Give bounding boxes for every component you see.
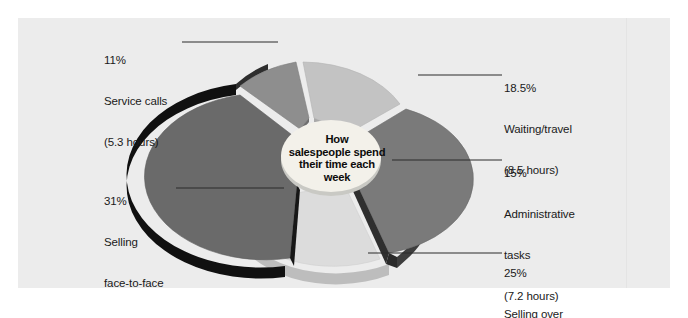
label-selling-phone-name-1: Selling over [504, 308, 564, 318]
label-administrative-percent: 15% [504, 167, 575, 181]
label-service-calls-hours: (5.3 hours) [104, 136, 167, 150]
label-waiting-travel-name: Waiting/travel [504, 123, 572, 137]
label-waiting-travel-percent: 18.5% [504, 82, 572, 96]
center-title-line-1: How [281, 133, 393, 146]
center-title-line-4: week [281, 171, 393, 184]
label-selling-phone: 25% Selling over the phone (11.6 hours) [504, 240, 564, 318]
label-selling-face-name-2: face-to-face [104, 277, 165, 291]
label-selling-face-to-face: 31% Selling face-to-face (14.3 hours) [104, 168, 165, 318]
chart-page: How salespeople spend their time each we… [0, 0, 688, 318]
center-title: How salespeople spend their time each we… [281, 133, 393, 183]
label-service-calls: 11% Service calls (5.3 hours) [104, 27, 167, 177]
label-selling-face-percent: 31% [104, 195, 165, 209]
label-selling-face-name-1: Selling [104, 236, 165, 250]
center-title-line-2: salespeople spend [281, 146, 393, 159]
label-selling-phone-percent: 25% [504, 267, 564, 281]
label-service-calls-percent: 11% [104, 54, 167, 68]
label-administrative-name-1: Administrative [504, 208, 575, 222]
center-title-line-3: their time each [281, 158, 393, 171]
label-service-calls-name: Service calls [104, 95, 167, 109]
slice-selling-face-to-face[interactable] [144, 95, 300, 266]
